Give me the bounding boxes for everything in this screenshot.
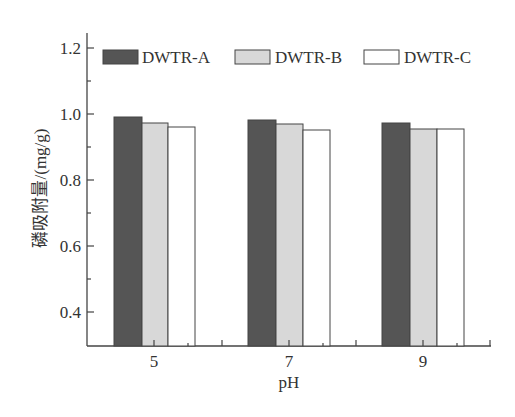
- bar-dwtr-a: [248, 120, 276, 346]
- x-tick-label: 9: [419, 352, 428, 371]
- bar-dwtr-a: [114, 117, 142, 346]
- bar-dwtr-a: [382, 123, 410, 346]
- legend-swatch-dwtr-a: [103, 50, 138, 64]
- legend-label-dwtr-c: DWTR-C: [404, 48, 471, 67]
- bar-group-ph5: [114, 117, 195, 346]
- y-tick-labels: 1.2 1.0 0.8 0.6 0.4: [60, 39, 82, 322]
- bar-dwtr-b: [276, 124, 303, 346]
- bar-dwtr-b: [142, 123, 168, 346]
- y-tick-label: 0.6: [60, 237, 81, 256]
- bar-chart: 1.2 1.0 0.8 0.6 0.4 5 7 9: [0, 0, 515, 417]
- legend-swatch-dwtr-b: [235, 50, 270, 64]
- bar-dwtr-c: [437, 129, 464, 346]
- x-axis-label: pH: [279, 373, 300, 392]
- legend-label-dwtr-a: DWTR-A: [142, 48, 211, 67]
- bar-dwtr-c: [168, 127, 195, 346]
- bar-group-ph9: [382, 123, 464, 346]
- legend-swatch-dwtr-c: [364, 50, 399, 64]
- y-axis-label: 磷吸附量/(mg/g): [31, 129, 50, 248]
- y-tick-label: 0.8: [60, 171, 81, 190]
- x-tick-labels: 5 7 9: [150, 352, 428, 371]
- y-tick-label: 1.2: [60, 39, 81, 58]
- y-ticks: [87, 48, 94, 312]
- x-tick-label: 5: [150, 352, 159, 371]
- bar-dwtr-b: [410, 129, 437, 346]
- y-tick-label: 0.4: [60, 303, 82, 322]
- legend: DWTR-A DWTR-B DWTR-C: [103, 48, 471, 67]
- legend-label-dwtr-b: DWTR-B: [275, 48, 342, 67]
- y-tick-label: 1.0: [60, 105, 81, 124]
- bar-dwtr-c: [303, 130, 330, 346]
- bar-group-ph7: [248, 120, 330, 346]
- x-tick-label: 7: [285, 352, 294, 371]
